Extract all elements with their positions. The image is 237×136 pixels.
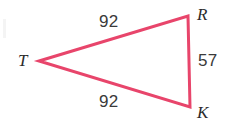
side-length-rk: 57 (198, 52, 218, 69)
geometry-figure: T R K 92 92 57 (0, 0, 237, 136)
side-length-tk: 92 (99, 93, 119, 110)
vertex-label-k: K (197, 104, 208, 121)
vertex-label-r: R (197, 6, 207, 23)
vertex-label-t: T (18, 52, 27, 69)
side-length-tr: 92 (99, 13, 119, 30)
